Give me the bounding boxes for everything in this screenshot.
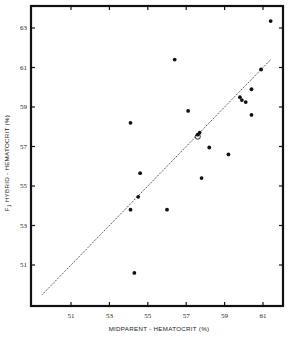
data-point — [227, 153, 231, 157]
data-point — [136, 195, 140, 199]
data-point — [129, 121, 133, 125]
data-point — [240, 98, 244, 102]
y-tick-label: 55 — [20, 182, 28, 190]
data-point — [200, 176, 204, 180]
x-tick-label: 53 — [106, 312, 114, 320]
y-tick-label: 51 — [20, 261, 28, 269]
data-point — [129, 208, 133, 212]
data-point — [173, 58, 177, 62]
data-point — [132, 271, 136, 275]
y-tick-label: 53 — [20, 222, 28, 230]
y-tick-label: 61 — [20, 64, 28, 72]
x-tick-label: 51 — [68, 312, 76, 320]
x-tick-label: 61 — [260, 312, 268, 320]
y-tick-label: 57 — [20, 143, 28, 151]
y-tick-label: 59 — [20, 103, 28, 111]
data-point — [259, 68, 263, 72]
data-point — [186, 109, 190, 113]
scatter-chart: 515355575961 51535557596163 MIDPARENT - … — [0, 0, 290, 337]
data-point — [250, 87, 254, 91]
x-tick-label: 59 — [221, 312, 229, 320]
x-axis-title: MIDPARENT - HEMATOCRIT (%) — [109, 325, 210, 332]
data-point — [207, 146, 211, 150]
x-tick-label: 55 — [144, 312, 152, 320]
x-tick-label: 57 — [183, 312, 191, 320]
data-point — [250, 113, 254, 117]
y-tick-label: 63 — [20, 24, 28, 32]
chart-background — [0, 0, 290, 337]
data-point — [244, 100, 248, 104]
data-point — [165, 208, 169, 212]
data-point — [138, 171, 142, 175]
y-axis-title-rest: HYBRID - HEMATOCRIT (%) — [3, 115, 10, 204]
data-point — [269, 19, 273, 23]
